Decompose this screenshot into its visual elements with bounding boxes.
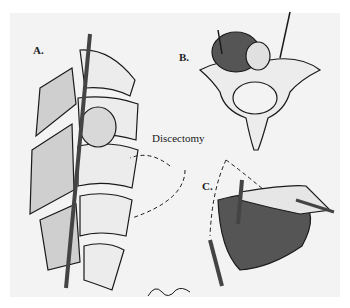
discectomy-callout-arrows (130, 155, 185, 218)
panel-b-vertebra-drawing (200, 12, 320, 150)
discectomy-label: Discectomy (152, 132, 205, 144)
panel-label-c: C. (202, 180, 213, 192)
panel-a-spine-drawing (30, 34, 138, 290)
panel-label-a: A. (33, 44, 44, 56)
panel-label-b: B. (179, 51, 189, 63)
medical-illustration (0, 0, 350, 308)
artist-signature (148, 288, 190, 296)
panel-c-vertebra-drawing (210, 180, 334, 286)
